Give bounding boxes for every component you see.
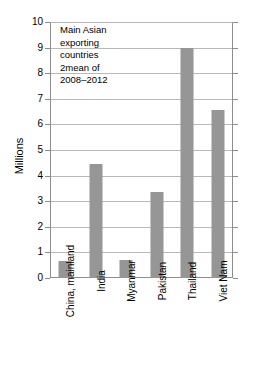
y-axis-tick-label: 3 — [21, 196, 43, 206]
y-axis-tick-right — [233, 201, 238, 202]
y-axis-tick-label: 4 — [21, 171, 43, 181]
y-axis-tick-right — [233, 48, 238, 49]
x-axis-label-slot: China, mainland — [50, 281, 81, 386]
bar[interactable] — [181, 48, 194, 278]
annotation-line: 2mean of — [60, 62, 152, 75]
y-axis-tick-right — [233, 99, 238, 100]
y-axis-tick-right — [233, 278, 238, 279]
bar-slot — [172, 22, 203, 278]
annotation-line: countries — [60, 49, 152, 62]
x-axis-label-slot: Pakistan — [142, 281, 173, 386]
y-axis-tick-label: 0 — [21, 273, 43, 283]
y-axis-tick-right — [233, 124, 238, 125]
y-axis-tick-right — [233, 252, 238, 253]
annotation-line: Main Asian — [60, 24, 152, 37]
x-axis-tick-label: Viet Nam — [218, 261, 229, 302]
x-axis-tick-label: Thailand — [187, 262, 198, 300]
bar[interactable] — [89, 164, 102, 278]
x-axis-tick-label: Pakistan — [157, 262, 168, 300]
annotation-line: exporting — [60, 37, 152, 50]
x-axis-label-slot: Myanmar — [111, 281, 142, 386]
y-axis-tick-right — [233, 227, 238, 228]
x-axis-labels: China, mainlandIndiaMyanmarPakistanThail… — [50, 281, 233, 386]
y-axis-tick-right — [233, 176, 238, 177]
y-axis-tick-right — [233, 22, 238, 23]
y-axis-tick-right — [233, 150, 238, 151]
y-axis-tick-label: 2 — [21, 222, 43, 232]
y-axis-tick-label: 6 — [21, 119, 43, 129]
y-axis-tick-right — [233, 73, 238, 74]
x-axis-label-slot: Thailand — [172, 281, 203, 386]
y-axis-tick-label: 7 — [21, 94, 43, 104]
y-axis-tick-label: 9 — [21, 43, 43, 53]
y-axis-tick-label: 1 — [21, 247, 43, 257]
bar[interactable] — [211, 110, 224, 278]
x-axis-tick-label: Myanmar — [126, 260, 137, 302]
x-axis-tick-label: India — [96, 270, 107, 292]
bar-chart: Millions 109876543210 Main Asianexportin… — [0, 0, 255, 390]
bar-slot — [203, 22, 234, 278]
x-axis-label-slot: Viet Nam — [203, 281, 234, 386]
x-axis-tick-label: China, mainland — [65, 245, 76, 317]
y-axis-tick — [45, 278, 50, 279]
chart-annotation: Main Asianexportingcountries2mean of2008… — [60, 24, 152, 87]
x-axis-label-slot: India — [81, 281, 112, 386]
y-axis-tick-label: 8 — [21, 68, 43, 78]
y-axis-tick-label: 10 — [21, 17, 43, 27]
y-axis-tick-label: 5 — [21, 145, 43, 155]
annotation-line: 2008–2012 — [60, 74, 152, 87]
